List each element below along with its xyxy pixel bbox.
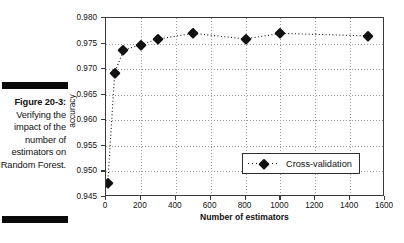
legend-entry-label: Cross-validation: [286, 159, 352, 169]
y-axis-tick-label: 0.950: [58, 166, 97, 175]
x-axis-tick: [105, 196, 106, 200]
x-axis-tick: [314, 196, 315, 200]
x-axis-tick-label: 0: [103, 201, 108, 210]
x-axis-tick: [140, 196, 141, 200]
data-point-marker: [362, 31, 373, 42]
x-axis-tick-label: 1000: [270, 201, 288, 210]
figure-caption-label: Figure 20-3:: [0, 96, 66, 109]
y-axis-tick-label: 0.960: [58, 115, 97, 124]
y-axis-tick: [101, 94, 105, 95]
figure-caption-body: Verifying the impact of the number of es…: [0, 109, 66, 172]
x-axis-tick-label: 400: [168, 201, 182, 210]
x-axis-tick-label: 200: [133, 201, 147, 210]
y-axis-tick: [101, 68, 105, 69]
data-point-marker: [118, 45, 129, 56]
y-axis-tick: [101, 196, 105, 197]
y-axis-tick-label: 0.965: [58, 89, 97, 98]
figure-caption: Figure 20-3: Verifying the impact of the…: [0, 96, 66, 172]
x-axis-tick: [384, 196, 385, 200]
y-axis-label: accuracy: [67, 71, 77, 151]
x-axis-tick-label: 600: [203, 201, 217, 210]
y-axis-tick: [101, 17, 105, 18]
y-axis-tick: [101, 145, 105, 146]
x-axis-tick-label: 800: [238, 201, 252, 210]
gridline-horizontal: [106, 69, 383, 70]
chart-legend: Cross-validation: [242, 153, 360, 174]
legend-diamond-marker-icon: [259, 158, 270, 169]
gridline-horizontal: [106, 44, 383, 45]
y-axis-tick-label: 0.970: [58, 64, 97, 73]
x-axis-tick: [349, 196, 350, 200]
x-axis-tick: [210, 196, 211, 200]
x-axis-tick-label: 1600: [375, 201, 393, 210]
y-axis-tick-label: 0.945: [58, 192, 97, 201]
gridline-horizontal: [106, 120, 383, 121]
x-axis-tick-label: 1200: [305, 201, 323, 210]
x-axis-tick: [279, 196, 280, 200]
x-axis-label: Number of estimators: [105, 212, 384, 222]
y-axis-tick: [101, 43, 105, 44]
y-axis-tick-label: 0.980: [58, 13, 97, 22]
y-axis-tick: [101, 170, 105, 171]
data-point-marker: [188, 28, 199, 39]
y-axis-tick-label: 0.955: [58, 140, 97, 149]
chart-figure: accuracy Number of estimators 0200400600…: [58, 0, 404, 243]
gridline-horizontal: [106, 95, 383, 96]
x-axis-tick: [245, 196, 246, 200]
gridline-horizontal: [106, 146, 383, 147]
x-axis-tick-label: 1400: [340, 201, 358, 210]
x-axis-tick: [175, 196, 176, 200]
legend-line-sample: [248, 159, 280, 169]
data-point-marker: [105, 178, 113, 189]
y-axis-tick-label: 0.975: [58, 38, 97, 47]
y-axis-tick: [101, 119, 105, 120]
